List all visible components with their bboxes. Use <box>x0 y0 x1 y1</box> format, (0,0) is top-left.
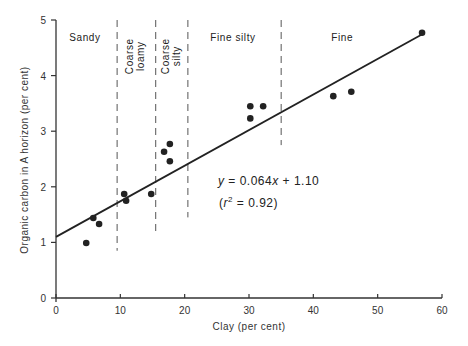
class-label-vertical: Coarseloamy <box>124 38 146 74</box>
svg-text:Coarse: Coarse <box>124 38 135 74</box>
y-tick-label: 2 <box>40 182 46 193</box>
x-tick-label: 20 <box>179 305 191 316</box>
svg-text:silty: silty <box>171 46 182 66</box>
data-point <box>247 115 254 122</box>
x-tick-label: 10 <box>115 305 127 316</box>
x-tick-label: 40 <box>308 305 320 316</box>
class-label: Fine silty <box>210 32 255 43</box>
y-tick-label: 1 <box>40 237 46 248</box>
class-label: Fine <box>331 32 353 43</box>
x-tick-label: 30 <box>243 305 255 316</box>
y-tick-label: 0 <box>40 293 46 304</box>
y-tick-label: 5 <box>40 15 46 26</box>
data-point <box>83 240 90 247</box>
data-point <box>167 141 174 148</box>
class-label: Sandy <box>69 32 100 43</box>
svg-text:Coarse: Coarse <box>160 38 171 74</box>
scatter-chart: SandyCoarseloamyCoarsesiltyFine siltyFin… <box>0 0 468 346</box>
x-tick-label: 0 <box>53 305 59 316</box>
y-axis-title: Organic carbon in A horizon (per cent) <box>19 66 30 253</box>
data-point <box>123 197 130 204</box>
x-tick-label: 50 <box>372 305 384 316</box>
data-point <box>419 29 426 36</box>
y-tick-label: 3 <box>40 126 46 137</box>
data-point <box>167 158 174 165</box>
data-point <box>148 191 155 198</box>
data-point <box>90 215 97 222</box>
class-label-vertical: Coarsesilty <box>160 38 182 74</box>
data-point <box>260 103 267 110</box>
data-point <box>247 103 254 110</box>
data-point <box>121 191 128 198</box>
data-point <box>348 88 355 95</box>
x-axis-title: Clay (per cent) <box>212 321 285 332</box>
x-tick-label: 60 <box>436 305 448 316</box>
svg-text:loamy: loamy <box>135 41 146 71</box>
data-point <box>96 221 103 228</box>
regression-equation: y = 0.064x + 1.10 <box>217 174 319 188</box>
r-squared-label: (r2 = 0.92) <box>219 195 278 210</box>
data-point <box>330 93 337 100</box>
axes: 0102030405060012345 <box>40 15 448 316</box>
data-point <box>161 148 168 155</box>
y-tick-label: 4 <box>40 71 46 82</box>
class-labels: SandyCoarseloamyCoarsesiltyFine siltyFin… <box>69 32 353 74</box>
